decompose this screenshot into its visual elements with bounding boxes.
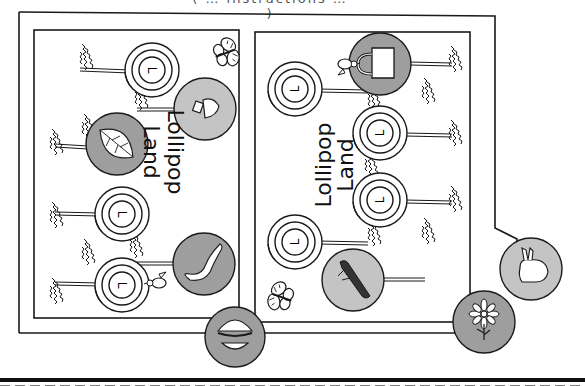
svg-text:Lollipop: Lollipop (163, 109, 188, 194)
svg-text:L: L (373, 129, 387, 136)
svg-text:L: L (115, 282, 129, 289)
svg-text:L: L (115, 211, 129, 218)
game-board: L L L Lollipop Land (0, 0, 585, 386)
svg-text:L: L (288, 238, 302, 245)
lollipop: L (353, 106, 407, 160)
svg-text:L: L (145, 67, 159, 74)
lollipop: L (353, 173, 407, 227)
svg-text:Land: Land (333, 138, 358, 192)
space-hamburger (205, 307, 265, 367)
space-lizard (173, 233, 235, 295)
lollipop: L (95, 187, 149, 241)
lollipop: L (125, 43, 179, 97)
space-flower (453, 291, 515, 353)
svg-text:Land: Land (139, 125, 164, 179)
bottom-rule (0, 378, 585, 382)
svg-text:L: L (288, 85, 302, 92)
svg-text:L: L (373, 196, 387, 203)
space-log (322, 249, 384, 311)
lollipop: L (268, 215, 322, 269)
lollipop: L (95, 258, 149, 312)
lollipop: L (268, 62, 322, 116)
space-leaf (86, 113, 148, 175)
space-rabbit (500, 238, 562, 300)
